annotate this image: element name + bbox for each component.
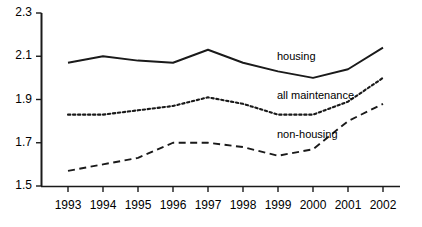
y-axis-tick-label: 1.9 — [2, 92, 32, 106]
x-axis-tick-label: 2001 — [331, 198, 365, 212]
data-series-group — [68, 48, 383, 171]
x-axis-tick-label: 1994 — [86, 198, 120, 212]
x-axis-tick-label: 2000 — [296, 198, 330, 212]
line-chart: 1.51.71.92.12.3 199319941995199619971998… — [0, 0, 422, 227]
y-axis-tick-label: 2.3 — [2, 5, 32, 19]
x-axis-tick-label: 1998 — [226, 198, 260, 212]
y-axis-tick-label: 1.7 — [2, 135, 32, 149]
chart-plot-area — [0, 0, 422, 227]
x-axis-tick-label: 1993 — [51, 198, 85, 212]
y-axis-tick-label: 1.5 — [2, 178, 32, 192]
series-line-housing — [68, 48, 383, 78]
x-axis-tick-label: 2002 — [366, 198, 400, 212]
x-axis-tick-label: 1997 — [191, 198, 225, 212]
series-label-non-housing: non-housing — [277, 128, 338, 140]
y-axis-tick-label: 2.1 — [2, 48, 32, 62]
series-label-all-maintenance: all maintenance — [277, 89, 354, 101]
x-axis-tick-label: 1996 — [156, 198, 190, 212]
x-axis-ticks — [68, 187, 383, 193]
x-axis-tick-label: 1999 — [261, 198, 295, 212]
series-label-housing: housing — [277, 50, 316, 62]
x-axis-tick-label: 1995 — [121, 198, 155, 212]
